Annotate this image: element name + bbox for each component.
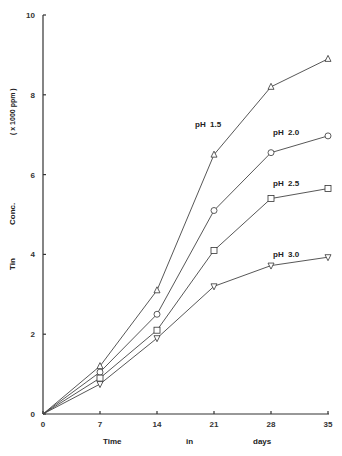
label-ph-3-0: pH 3.0	[273, 250, 300, 259]
x-tick-label: 35	[324, 420, 333, 429]
circle-marker	[97, 369, 103, 375]
y-tick-label: 6	[31, 171, 36, 180]
triangle-down-marker	[97, 382, 103, 388]
y-title-tin: Tin	[8, 258, 17, 270]
x-title-in: in	[186, 437, 193, 446]
series-ph-3-0	[43, 255, 331, 414]
y-tick-label: 2	[31, 330, 36, 339]
y-tick-label: 0	[31, 410, 36, 419]
triangle-up-marker	[268, 83, 274, 89]
square-marker	[325, 186, 331, 192]
circle-marker	[325, 133, 331, 139]
square-marker	[211, 247, 217, 253]
x-title-time: Time	[103, 437, 122, 446]
y-tick-label: 10	[26, 11, 35, 20]
x-tick-label: 7	[98, 420, 103, 429]
x-axis-title: Time in days	[103, 437, 272, 446]
x-title-days: days	[253, 437, 272, 446]
circle-marker	[211, 208, 217, 214]
triangle-up-marker	[325, 55, 331, 61]
x-tick-label: 28	[267, 420, 276, 429]
y-title-units: ( x 1000 ppm )	[9, 88, 17, 135]
data-series	[43, 55, 331, 414]
y-title-conc: Conc.	[8, 203, 17, 225]
series-ph-2-0	[43, 133, 331, 414]
y-tick-label: 8	[31, 91, 36, 100]
label-ph-1-5: pH 1.5	[195, 120, 222, 129]
axes	[43, 15, 329, 414]
circle-marker	[154, 311, 160, 317]
series-line	[43, 257, 328, 414]
y-tick-label: 4	[31, 250, 36, 259]
triangle-down-marker	[154, 336, 160, 342]
square-marker	[268, 196, 274, 202]
label-ph-2-0: pH 2.0	[273, 128, 300, 137]
x-tick-label: 0	[41, 420, 46, 429]
y-axis-title: Tin Conc. ( x 1000 ppm )	[8, 88, 17, 270]
series-labels: pH 1.5 pH 2.0 pH 2.5 pH 3.0	[195, 120, 300, 259]
square-marker	[154, 327, 160, 333]
series-line	[43, 136, 328, 414]
series-ph-1-5	[43, 55, 331, 414]
tin-concentration-chart: 0714212835 0246810 Time in days Tin Conc…	[0, 0, 342, 456]
x-tick-label: 14	[153, 420, 162, 429]
triangle-up-marker	[154, 287, 160, 293]
square-marker	[97, 375, 103, 381]
label-ph-2-5: pH 2.5	[273, 179, 300, 188]
triangle-down-marker	[211, 284, 217, 290]
circle-marker	[268, 150, 274, 156]
x-tick-label: 21	[210, 420, 219, 429]
series-line	[43, 59, 328, 414]
